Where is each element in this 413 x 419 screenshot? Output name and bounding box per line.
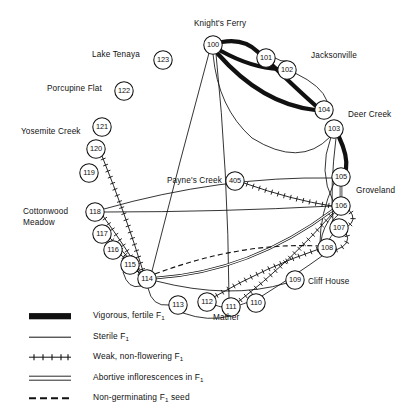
node-label-112: 112 — [201, 297, 212, 306]
legend-swatch-seed — [27, 388, 79, 409]
locality-label-porcupine-flat: Porcupine Flat — [47, 84, 102, 95]
locality-label-cottonwood-meadow: Cottonwood Meadow — [23, 207, 68, 228]
node-label-108: 108 — [321, 243, 333, 252]
node-label-102: 102 — [281, 65, 293, 74]
legend-label-vigorous: Vigorous, fertile F1 — [93, 310, 165, 320]
node-115[interactable]: 115 — [121, 256, 139, 274]
legend-label-abortive: Abortive inflorescences in F1 — [93, 372, 204, 382]
legend-swatch-weak — [27, 347, 79, 368]
node-107[interactable]: 107 — [330, 219, 348, 237]
node-label-115: 115 — [124, 260, 135, 269]
node-label-100: 100 — [207, 40, 219, 49]
locality-label-knights-ferry: Knight's Ferry — [194, 19, 246, 30]
node-label-122: 122 — [118, 86, 130, 95]
legend-item-seed: Non-germinating F1 seed — [27, 388, 277, 409]
node-label-119: 119 — [83, 168, 94, 177]
node-label-105: 105 — [335, 172, 347, 181]
edge-100-101 — [222, 41, 258, 52]
node-101[interactable]: 101 — [257, 49, 275, 67]
node-label-106: 106 — [335, 201, 347, 210]
edge-111-110 — [240, 303, 247, 305]
locality-label-jacksonville: Jacksonville — [311, 51, 357, 62]
node-label-104: 104 — [318, 105, 330, 114]
edge-112-108 — [214, 247, 319, 298]
edge-103-105 — [339, 137, 346, 169]
legend-swatch-sterile — [27, 327, 79, 348]
node-100[interactable]: 100 — [204, 36, 222, 54]
node-123[interactable]: 123 — [154, 51, 172, 69]
edge-118-106 — [104, 206, 332, 212]
node-102[interactable]: 102 — [278, 61, 296, 79]
node-label-117: 117 — [96, 229, 107, 238]
node-405[interactable]: 405 — [226, 172, 244, 190]
legend-item-weak: Weak, non-flowering F1 — [27, 347, 277, 368]
node-label-120: 120 — [90, 144, 102, 153]
node-120[interactable]: 120 — [87, 140, 105, 158]
locality-label-cliff-house: Cliff House — [308, 277, 350, 288]
legend: Vigorous, fertile F1Sterile F1Weak, non-… — [27, 306, 277, 409]
node-label-121: 121 — [96, 122, 108, 131]
edge-100-114 — [152, 53, 209, 271]
node-label-107: 107 — [333, 223, 345, 232]
edge-405-106 — [244, 182, 332, 208]
node-119[interactable]: 119 — [80, 164, 98, 182]
figure-canvas: 1001011021041031051061071081091101111121… — [0, 0, 413, 419]
node-label-101: 101 — [260, 53, 272, 62]
node-109[interactable]: 109 — [286, 271, 304, 289]
legend-swatch-abortive — [27, 368, 79, 389]
node-label-114: 114 — [141, 274, 152, 283]
node-122[interactable]: 122 — [115, 82, 133, 100]
node-106[interactable]: 106 — [332, 197, 350, 215]
legend-label-weak: Weak, non-flowering F1 — [93, 351, 183, 361]
node-108[interactable]: 108 — [318, 239, 336, 257]
locality-label-paynes-creek: Payne's Creek — [167, 176, 222, 187]
edge-114-106 — [156, 210, 333, 278]
edge-114-113 — [148, 288, 169, 305]
node-121[interactable]: 121 — [93, 118, 111, 136]
legend-item-sterile: Sterile F1 — [27, 327, 277, 348]
legend-item-vigorous: Vigorous, fertile F1 — [27, 306, 277, 327]
node-label-123: 123 — [157, 55, 169, 64]
edge-114-108 — [155, 246, 319, 274]
locality-label-groveland: Groveland — [356, 186, 395, 197]
locality-label-deer-creek: Deer Creek — [348, 110, 391, 121]
locality-label-lake-tenaya: Lake Tenaya — [92, 50, 140, 61]
edge-106-107b — [347, 210, 356, 227]
node-label-116: 116 — [107, 245, 118, 254]
node-label-405: 405 — [229, 176, 241, 185]
edge-102-104 — [295, 73, 327, 101]
node-label-118: 118 — [89, 207, 100, 216]
node-118[interactable]: 118 — [86, 203, 104, 221]
node-116[interactable]: 116 — [104, 241, 122, 259]
node-label-103: 103 — [328, 124, 340, 133]
legend-swatch-vigorous — [27, 306, 79, 327]
edge-111-106 — [238, 213, 333, 302]
edge-114-109 — [156, 281, 287, 291]
node-103[interactable]: 103 — [325, 120, 343, 138]
legend-label-seed: Non-germinating F1 seed — [93, 392, 190, 402]
node-114[interactable]: 114 — [138, 270, 156, 288]
node-117[interactable]: 117 — [93, 225, 111, 243]
node-104[interactable]: 104 — [315, 101, 333, 119]
node-label-109: 109 — [289, 275, 301, 284]
legend-label-sterile: Sterile F1 — [93, 331, 129, 341]
locality-label-yosemite-creek: Yosemite Creek — [21, 127, 81, 138]
node-105[interactable]: 105 — [332, 168, 350, 186]
legend-item-abortive: Abortive inflorescences in F1 — [27, 368, 277, 389]
